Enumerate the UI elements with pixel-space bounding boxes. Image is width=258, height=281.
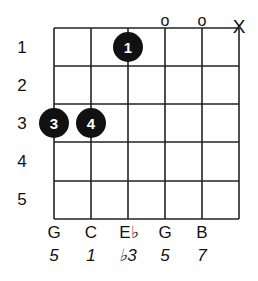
fret-number-1: 1 [17,38,26,57]
interval-4: 5 [160,246,170,265]
fret-number-3: 3 [17,114,26,133]
string-markers: o o X [161,12,246,37]
muted-string-icon: X [233,16,246,37]
note-name-2: C [85,223,97,242]
open-string-icon: o [198,12,207,29]
note-name-3: E♭ [119,223,138,242]
finger-dot-1: 1 [113,32,143,62]
interval-3: ♭3 [119,246,137,265]
finger-label: 1 [124,39,132,56]
finger-dot-3: 3 [39,108,69,138]
interval-1: 5 [49,246,59,265]
chord-diagram: 1 2 3 4 5 o o X 1 3 4 G C E♭ G B 5 [0,0,258,281]
finger-dot-4: 4 [76,108,106,138]
intervals: 5 1 ♭3 5 7 [49,246,207,265]
note-name-4: G [158,223,171,242]
fret-number-2: 2 [17,76,26,95]
note-names: G C E♭ G B [47,223,207,242]
note-name-1: G [47,223,60,242]
fret-number-5: 5 [17,190,26,209]
finger-label: 4 [87,115,96,132]
interval-5: 7 [197,246,207,265]
open-string-icon: o [161,12,170,29]
interval-2: 1 [86,246,95,265]
finger-label: 3 [50,115,58,132]
fret-numbers: 1 2 3 4 5 [17,38,26,209]
fret-number-4: 4 [17,152,26,171]
note-name-5: B [196,223,207,242]
